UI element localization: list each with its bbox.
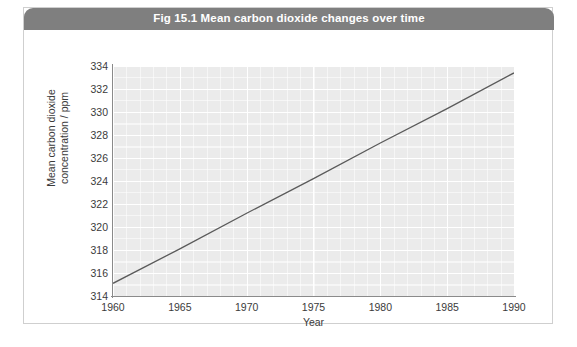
chart-region: 314316318320322324326328330332334 196019…: [24, 30, 554, 325]
y-tick-label: 332: [80, 84, 108, 95]
x-axis-title: Year: [113, 317, 514, 328]
y-tick-label: 320: [80, 222, 108, 233]
x-tick-label: 1970: [225, 302, 269, 313]
y-tick-label: 318: [80, 245, 108, 256]
figure-title-text: Fig 15.1 Mean carbon dioxide changes ove…: [153, 13, 424, 25]
y-tick-label: 322: [80, 199, 108, 210]
y-tick-label: 314: [80, 291, 108, 302]
x-tick-label: 1980: [358, 302, 402, 313]
figure-title-banner: Fig 15.1 Mean carbon dioxide changes ove…: [24, 8, 554, 30]
y-tick-label: 328: [80, 130, 108, 141]
x-tick-label: 1960: [91, 302, 135, 313]
y-tick-label: 324: [80, 176, 108, 187]
y-axis-tick-labels: 314316318320322324326328330332334: [76, 30, 108, 325]
y-tick-label: 334: [80, 61, 108, 72]
y-tick-label: 316: [80, 268, 108, 279]
y-tick-label: 326: [80, 153, 108, 164]
data-series-svg: [113, 66, 514, 296]
plot-area: [113, 66, 514, 296]
x-tick-label: 1965: [158, 302, 202, 313]
figure-card: Fig 15.1 Mean carbon dioxide changes ove…: [23, 7, 553, 324]
x-tick-label: 1990: [492, 302, 536, 313]
y-axis-title: Mean carbon dioxide concentration / ppm: [45, 58, 71, 218]
series-line-co2: [113, 73, 514, 283]
y-axis-spine: [112, 64, 113, 298]
x-tick-label: 1975: [292, 302, 336, 313]
y-tick-label: 330: [80, 107, 108, 118]
x-tick-label: 1985: [425, 302, 469, 313]
x-axis-spine: [111, 296, 516, 297]
